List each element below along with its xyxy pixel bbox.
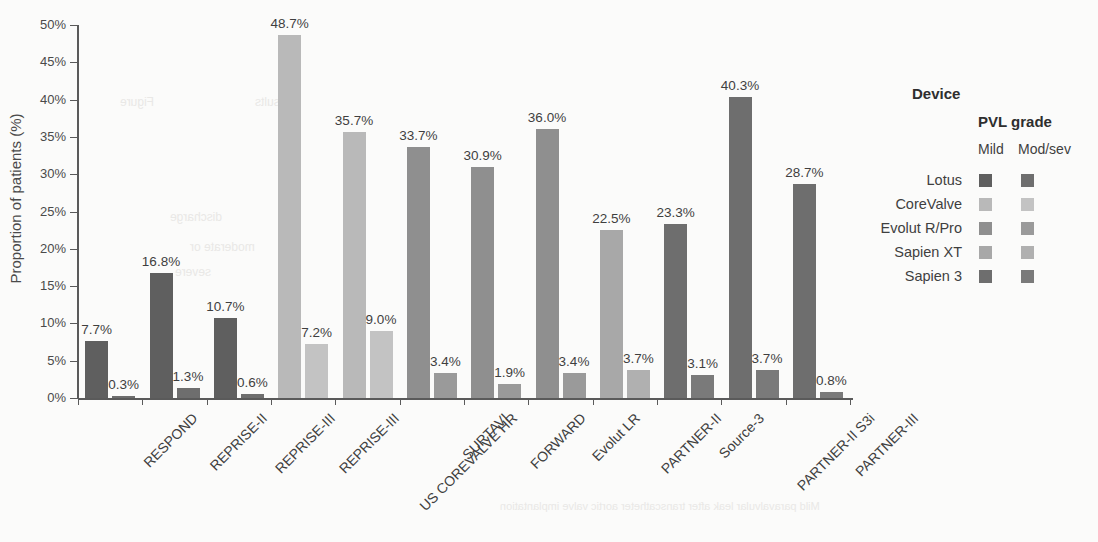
bar	[343, 132, 366, 398]
bar	[563, 373, 586, 398]
bar	[305, 344, 328, 398]
y-axis-tick-label: 15%	[22, 279, 66, 292]
bar-value-label: 23.3%	[648, 206, 704, 220]
bar	[627, 370, 650, 398]
bar	[471, 167, 494, 398]
bar	[370, 331, 393, 398]
bar-value-label: 3.4%	[546, 355, 602, 369]
bar	[241, 394, 264, 398]
x-axis-tick	[142, 398, 143, 405]
bar	[600, 230, 623, 398]
bar-value-label: 16.8%	[133, 255, 189, 269]
y-axis-tick-label: 30%	[22, 167, 66, 180]
y-axis-tick	[70, 100, 78, 101]
x-axis-tick	[464, 398, 465, 405]
x-axis-tick	[78, 398, 79, 405]
bar	[664, 224, 687, 398]
legend-swatch-mild	[979, 270, 992, 283]
x-axis-category-label: REPRISE-II	[206, 410, 270, 474]
y-axis-tick-label: 25%	[22, 205, 66, 218]
bar-value-label: 3.1%	[675, 357, 731, 371]
legend-device-label: Lotus	[927, 172, 962, 188]
x-axis-category-label: Source-3	[716, 410, 767, 461]
x-axis-tick	[850, 398, 851, 405]
legend-swatch-modsev	[1021, 246, 1034, 259]
x-axis-tick	[657, 398, 658, 405]
legend-swatch-modsev	[1021, 270, 1034, 283]
bar-value-label: 36.0%	[519, 111, 575, 125]
bar	[691, 375, 714, 398]
bar-value-label: 40.3%	[712, 79, 768, 93]
y-axis-tick-label: 35%	[22, 130, 66, 143]
y-axis-tick-label: 50%	[22, 18, 66, 31]
legend-subheader-modsev: Mod/sev	[1018, 141, 1071, 157]
x-axis-category-label: PARTNER-II S3i	[793, 410, 877, 494]
legend-swatch-modsev	[1021, 222, 1034, 235]
legend-swatch-modsev	[1021, 198, 1034, 211]
bar	[756, 370, 779, 398]
bar-value-label: 9.0%	[353, 313, 409, 327]
bar	[793, 184, 816, 398]
y-axis-tick-label: 5%	[22, 354, 66, 367]
legend-swatch-mild	[979, 174, 992, 187]
bar-value-label: 33.7%	[390, 129, 446, 143]
bar-value-label: 3.4%	[417, 355, 473, 369]
y-axis-tick	[70, 25, 78, 26]
y-axis-tick	[70, 137, 78, 138]
legend-swatch-modsev	[1021, 174, 1034, 187]
bar	[498, 384, 521, 398]
bar	[434, 373, 457, 398]
x-axis-tick	[528, 398, 529, 405]
y-axis-tick	[70, 398, 78, 399]
y-axis-tick	[70, 361, 78, 362]
y-axis-tick-label: 20%	[22, 242, 66, 255]
bar-value-label: 10.7%	[197, 300, 253, 314]
bar-value-label: 1.9%	[482, 366, 538, 380]
legend-row: Sapien 3	[860, 265, 1090, 289]
bar-value-label: 35.7%	[326, 114, 382, 128]
bar-value-label: 3.7%	[610, 352, 666, 366]
legend-subheader-mild: Mild	[978, 141, 1004, 157]
legend-pvl-grade-title: PVL grade	[978, 113, 1052, 130]
y-axis-tick	[70, 62, 78, 63]
x-axis-category-label: PARTNER-II	[658, 410, 725, 477]
bar	[278, 35, 301, 398]
x-axis-tick	[207, 398, 208, 405]
y-axis-tick	[70, 212, 78, 213]
bar-value-label: 0.8%	[803, 374, 859, 388]
x-axis-tick	[593, 398, 594, 405]
legend-row: CoreValve	[860, 193, 1090, 217]
legend-row: Sapien XT	[860, 241, 1090, 265]
bar-value-label: 7.2%	[289, 326, 345, 340]
x-axis-category-label: Evolut LR	[588, 410, 642, 464]
bar-value-label: 48.7%	[262, 17, 318, 31]
x-axis-line	[78, 398, 853, 400]
legend-swatch-mild	[979, 222, 992, 235]
x-axis-category-label: FORWARD	[527, 410, 589, 472]
bar-value-label: 0.6%	[224, 376, 280, 390]
legend-swatch-mild	[979, 246, 992, 259]
y-axis-tick	[70, 174, 78, 175]
x-axis-tick	[335, 398, 336, 405]
bar	[112, 396, 135, 398]
legend-device-title: Device	[912, 85, 960, 102]
x-axis-tick	[721, 398, 722, 405]
y-axis-tick-label: 0%	[22, 391, 66, 404]
y-axis-title: Proportion of patients (%)	[7, 34, 24, 364]
x-axis-category-label: REPRISE-III	[272, 410, 338, 476]
bar-value-label: 30.9%	[455, 149, 511, 163]
bar	[820, 392, 843, 398]
bar-value-label: 0.3%	[96, 378, 152, 392]
bar-value-label: 1.3%	[160, 370, 216, 384]
x-axis-tick	[786, 398, 787, 405]
x-axis-tick	[400, 398, 401, 405]
bar-value-label: 3.7%	[739, 352, 795, 366]
legend-device-label: Evolut R/Pro	[881, 220, 962, 236]
legend-device-label: Sapien 3	[905, 268, 962, 284]
y-axis-tick-label: 45%	[22, 55, 66, 68]
legend-device-label: Sapien XT	[894, 244, 962, 260]
bar	[177, 388, 200, 398]
legend-device-label: CoreValve	[895, 196, 962, 212]
y-axis-tick	[70, 249, 78, 250]
x-axis-category-label: REPRISE-III	[336, 410, 402, 476]
